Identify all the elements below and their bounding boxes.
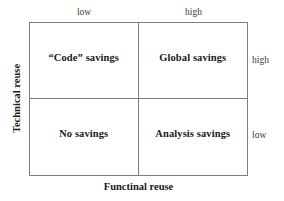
quadrant-bottom-left-label: No savings: [59, 128, 108, 139]
quadrant-bottom-left: No savings: [30, 99, 139, 175]
y-axis-tick-high: high: [252, 55, 284, 65]
quadrant-top-right-label: Global savings: [159, 52, 226, 63]
x-axis-tick-low: low: [29, 7, 139, 17]
quadrant-matrix-figure: low high “Code” savings Global savings N…: [0, 0, 284, 201]
quadrant-bottom-right-label: Analysis savings: [155, 128, 230, 139]
quadrant-top-left-label: “Code” savings: [48, 52, 119, 63]
quadrant-top-right: Global savings: [139, 23, 248, 99]
quadrant-top-left: “Code” savings: [30, 23, 139, 99]
matrix-box: “Code” savings Global savings No savings…: [29, 22, 248, 176]
quadrant-bottom-right: Analysis savings: [139, 99, 248, 175]
x-axis-tick-high: high: [139, 7, 248, 17]
y-axis-title: Technical reuse: [11, 42, 22, 156]
y-axis-tick-low: low: [252, 130, 284, 140]
x-axis-title: Functinal reuse: [29, 181, 248, 192]
